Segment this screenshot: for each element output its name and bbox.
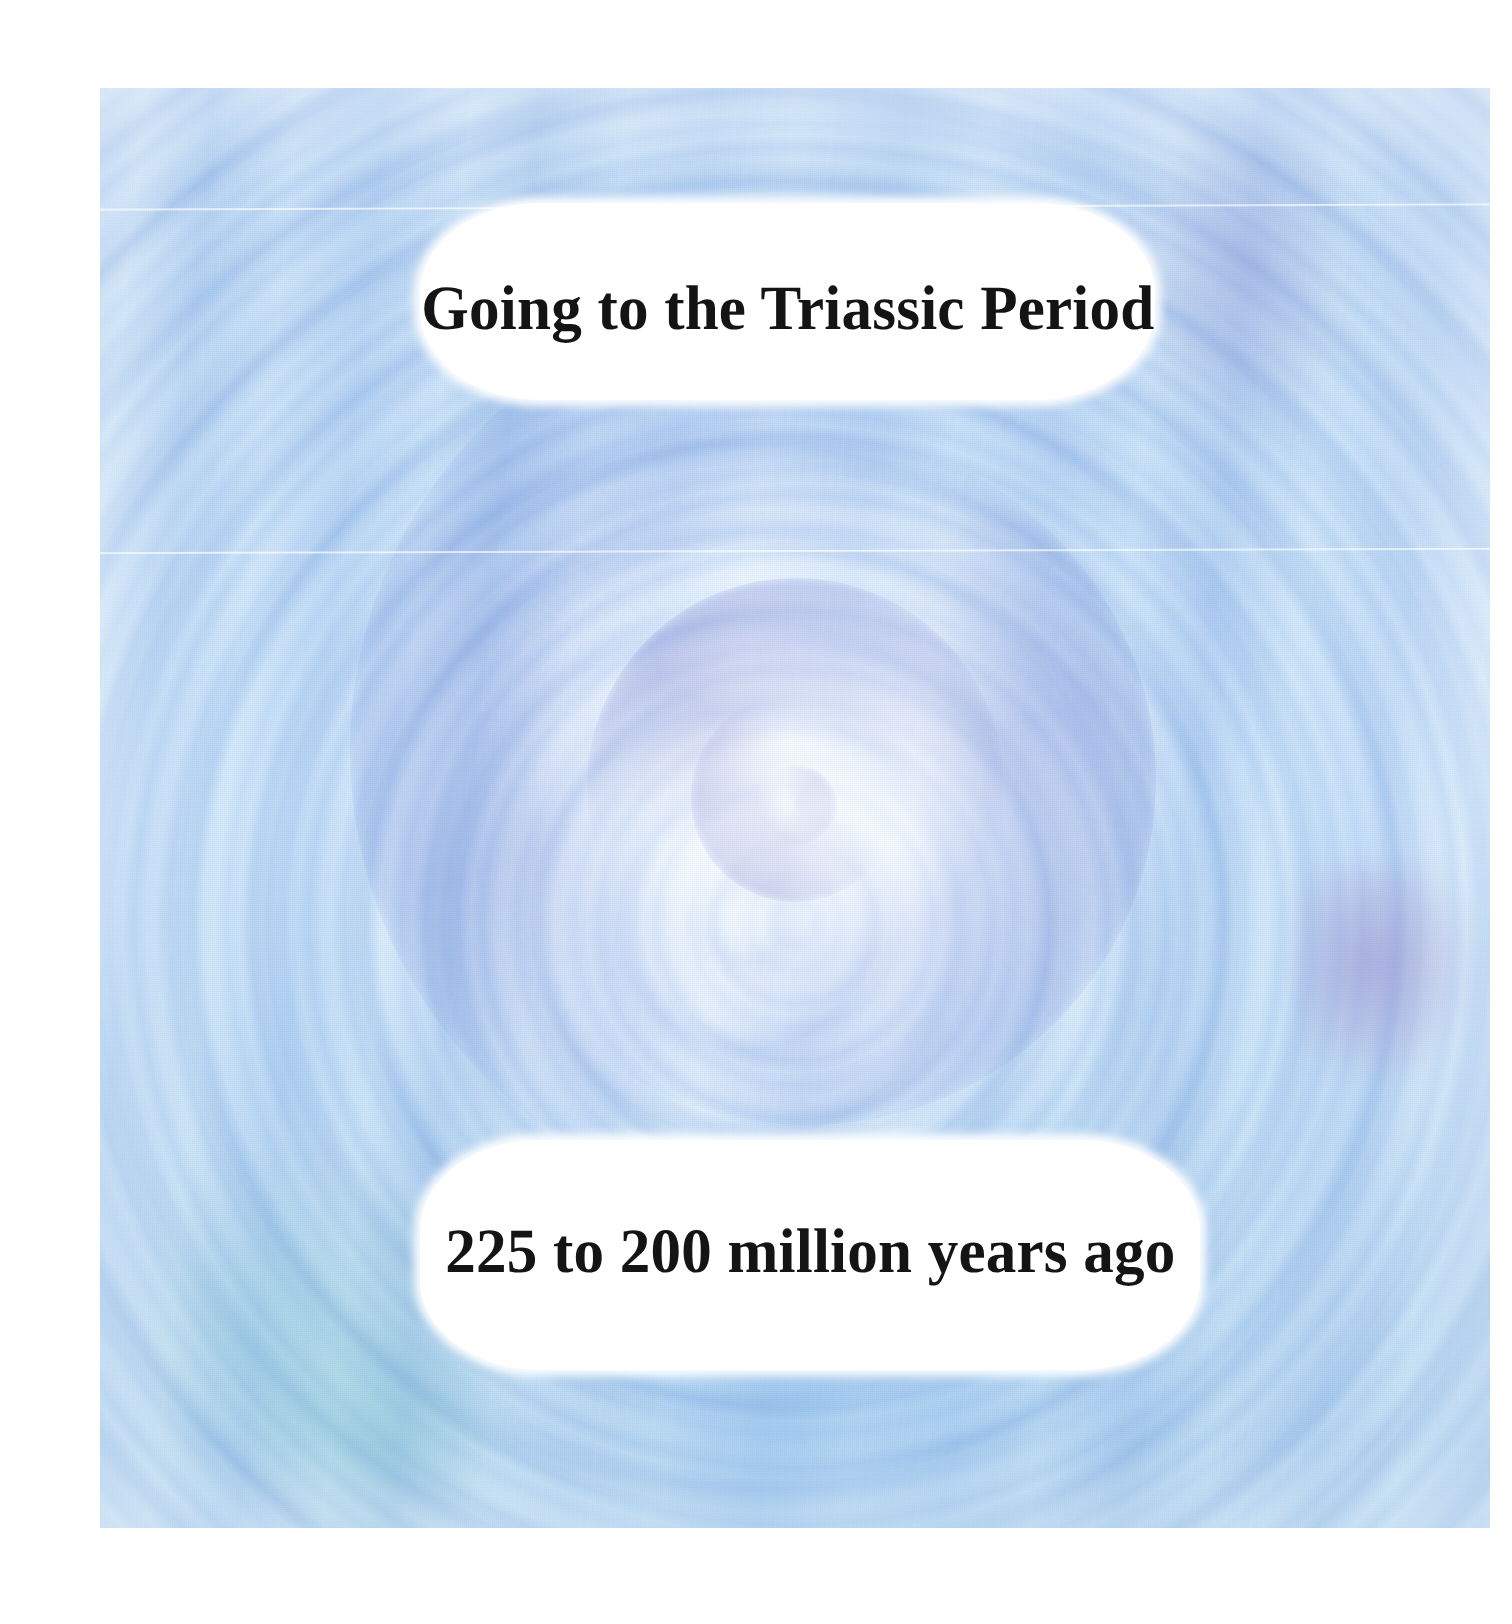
- page-subtitle: 225 to 200 million years ago: [445, 1220, 1175, 1283]
- spiral-nucleus: [753, 765, 836, 846]
- purple-tint-right: [1295, 866, 1476, 1082]
- teal-tint-bottom-left: [239, 1326, 517, 1528]
- slide-illustration: Going to the Triassic Period 225 to 200 …: [100, 88, 1490, 1528]
- page-title: Going to the Triassic Period: [421, 277, 1154, 340]
- page-canvas: Going to the Triassic Period 225 to 200 …: [0, 0, 1512, 1624]
- purple-tint-top-right: [1129, 117, 1351, 434]
- title-callout: Going to the Triassic Period: [420, 203, 1155, 400]
- subtitle-callout: 225 to 200 million years ago: [420, 1140, 1200, 1370]
